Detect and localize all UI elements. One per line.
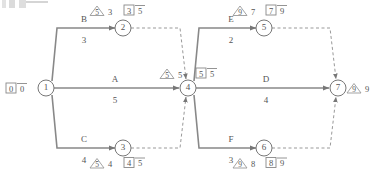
node-5-triangle-marker: 9 7 bbox=[233, 6, 255, 17]
node-2-triangle-number: 3 bbox=[108, 7, 112, 17]
activity-F-name: F bbox=[228, 134, 233, 144]
node-2[interactable]: 2 bbox=[115, 20, 131, 36]
node-6-triangle-number: 8 bbox=[251, 159, 255, 169]
node-1[interactable]: 1 bbox=[38, 80, 54, 96]
node-4-triangle-marker: 5 5 bbox=[160, 69, 182, 80]
node-7-triangle-marker: 9 9 bbox=[347, 84, 369, 95]
node-2-triangle-marker: 5 3 bbox=[90, 6, 112, 17]
network-canvas: 1 2 3 4 5 6 7 B 3 bbox=[0, 0, 373, 177]
node-3[interactable]: 3 bbox=[115, 140, 131, 156]
node-2-triangle-value: 5 bbox=[95, 8, 99, 17]
activity-label-A: A 5 bbox=[112, 74, 119, 105]
node-6[interactable]: 6 bbox=[256, 140, 272, 156]
node-7-label: 7 bbox=[336, 82, 341, 92]
node-4-time-box: 5 5 bbox=[196, 68, 217, 79]
activity-E-duration: 2 bbox=[229, 35, 234, 45]
node-3-time-box: 4 5 bbox=[124, 158, 145, 169]
activity-label-C: C 4 bbox=[81, 134, 87, 165]
activity-D-name: D bbox=[263, 74, 270, 84]
node-2-label: 2 bbox=[121, 22, 126, 32]
node-3-triangle-number: 4 bbox=[108, 159, 113, 169]
dummy-edge-3-to-4 bbox=[131, 97, 186, 148]
node-5-time-box: 7 9 bbox=[266, 5, 287, 16]
node-3-label: 3 bbox=[121, 142, 126, 152]
activity-C-name: C bbox=[81, 134, 87, 144]
node-6-early-time: 8 bbox=[269, 158, 273, 168]
node-4-triangle-value: 5 bbox=[165, 71, 169, 80]
node-3-triangle-value: 5 bbox=[95, 160, 99, 169]
node-3-triangle-marker: 5 4 bbox=[90, 159, 113, 170]
node-5-triangle-value: 9 bbox=[238, 8, 242, 17]
edge-F-4-to-6 bbox=[194, 95, 256, 148]
node-4-triangle-number: 5 bbox=[178, 70, 182, 80]
activity-label-D: D 4 bbox=[263, 74, 270, 105]
node-4-late-time: 5 bbox=[210, 69, 214, 79]
node-5[interactable]: 5 bbox=[256, 20, 272, 36]
edge-E-4-to-5 bbox=[194, 28, 256, 81]
node-1-early-time: 0 bbox=[9, 84, 13, 94]
node-6-triangle-value: 9 bbox=[238, 160, 242, 169]
node-1-time-box: 0 0 bbox=[6, 83, 27, 94]
activity-A-name: A bbox=[112, 74, 119, 84]
node-6-triangle-marker: 9 8 bbox=[233, 159, 255, 170]
node-7-triangle-value: 9 bbox=[352, 85, 356, 94]
network-diagram: 1 2 3 4 5 6 7 B 3 bbox=[0, 0, 373, 177]
node-7[interactable]: 7 bbox=[330, 80, 346, 96]
node-6-time-box: 8 9 bbox=[266, 158, 287, 169]
activity-B-duration: 3 bbox=[82, 35, 87, 45]
dummy-edge-5-to-7 bbox=[272, 28, 336, 79]
activity-C-duration: 4 bbox=[82, 155, 87, 165]
node-2-time-box: 3 5 bbox=[124, 5, 145, 16]
node-2-early-time: 3 bbox=[127, 6, 131, 16]
activity-label-B: B 3 bbox=[81, 14, 87, 45]
node-1-label: 1 bbox=[44, 82, 49, 92]
node-5-early-time: 7 bbox=[269, 6, 273, 16]
node-4-early-time: 5 bbox=[199, 69, 203, 79]
node-3-early-time: 4 bbox=[127, 158, 132, 168]
activity-label-F: F 3 bbox=[228, 134, 233, 165]
activity-F-duration: 3 bbox=[229, 155, 234, 165]
node-3-late-time: 5 bbox=[138, 158, 142, 168]
node-7-triangle-number: 9 bbox=[365, 84, 369, 94]
node-1-late-time: 0 bbox=[20, 84, 24, 94]
node-2-late-time: 5 bbox=[138, 6, 142, 16]
activity-D-duration: 4 bbox=[264, 95, 269, 105]
node-5-late-time: 9 bbox=[280, 6, 284, 16]
node-6-late-time: 9 bbox=[280, 158, 284, 168]
node-4[interactable]: 4 bbox=[180, 80, 196, 96]
node-5-triangle-number: 7 bbox=[251, 7, 255, 17]
node-6-label: 6 bbox=[262, 142, 267, 152]
node-5-label: 5 bbox=[262, 22, 267, 32]
activity-B-name: B bbox=[81, 14, 87, 24]
activity-label-E: E 2 bbox=[228, 14, 234, 45]
dummy-edge-6-to-7 bbox=[272, 97, 336, 148]
activity-A-duration: 5 bbox=[113, 95, 118, 105]
node-4-label: 4 bbox=[186, 82, 191, 92]
